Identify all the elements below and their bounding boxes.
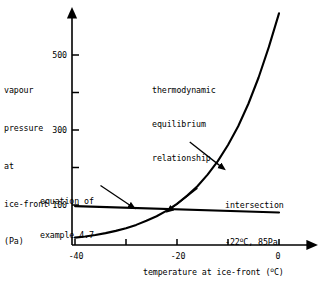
intersection-label: intersection -22oC, 85Pa <box>225 178 284 271</box>
equation-label-line-1: equation of <box>40 196 94 207</box>
intersection-pressure-value: C, 85Pa <box>243 237 277 247</box>
equation-label-line-2: example 4.7 <box>40 230 94 241</box>
x-tick-label-minus20: -20 <box>166 251 190 262</box>
thermo-label-line-1: thermodynamic <box>152 85 216 96</box>
intersection-label-line-1: intersection <box>225 200 284 211</box>
thermodynamic-equilibrium-label: thermodynamic equilibrium relationship <box>152 63 216 186</box>
thermo-label-line-2: equilibrium <box>152 119 216 130</box>
chart-figure: 500 300 100 -40 -20 0 vapour pressure at… <box>0 0 335 291</box>
y-axis-title-line-2: pressure <box>4 122 48 135</box>
equation-annotation-arrow <box>101 186 130 206</box>
thermo-label-line-3: relationship <box>152 153 216 164</box>
y-axis-title-line-3: at <box>4 160 48 173</box>
equation-example-label: equation of example 4.7 <box>40 174 94 264</box>
intersection-label-value: -22oC, 85Pa <box>225 234 284 248</box>
intersection-temperature-value: -22 <box>225 237 240 247</box>
intersection-annotation-arrow <box>172 188 198 208</box>
y-axis-title-line-1: vapour <box>4 84 48 97</box>
